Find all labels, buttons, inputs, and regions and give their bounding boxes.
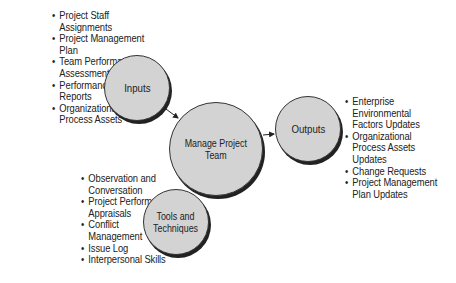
arrow-center-to-outputs	[263, 134, 274, 135]
inputs-circle: Inputs	[104, 55, 170, 121]
tools-and-techniques-circle: Tools andTechniques	[143, 189, 209, 255]
tools-label: Tools andTechniques	[152, 210, 201, 234]
outputs-label: Outputs	[291, 123, 325, 135]
outputs-circle: Outputs	[275, 96, 341, 162]
center-label: Manage ProjectTeam	[182, 137, 250, 161]
arrow-inputs-to-center	[166, 109, 178, 118]
inputs-label: Inputs	[124, 82, 150, 94]
manage-project-team-circle: Manage ProjectTeam	[169, 102, 263, 196]
